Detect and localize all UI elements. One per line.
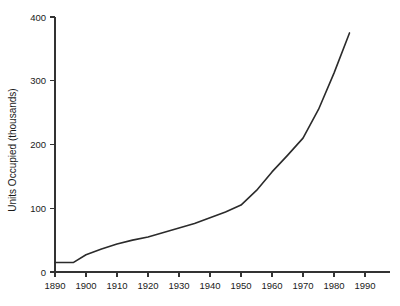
x-tick-label: 1990	[354, 280, 375, 291]
y-axis-title: Units Occupied (thousands)	[7, 88, 18, 211]
y-tick-label: 200	[30, 139, 46, 150]
y-tick-label: 0	[41, 267, 46, 278]
x-tick-label: 1970	[292, 280, 313, 291]
x-tick-label: 1950	[230, 280, 251, 291]
x-tick-label: 1900	[75, 280, 96, 291]
y-tick-label: 300	[30, 75, 46, 86]
x-tick-label: 1960	[261, 280, 282, 291]
x-axis-ticks: 1890190019101920193019401950196019701980…	[44, 272, 375, 291]
chart-container: 0100200300400 18901900191019201930194019…	[0, 0, 400, 306]
x-tick-label: 1920	[137, 280, 158, 291]
y-tick-label: 400	[30, 12, 46, 23]
y-axis-ticks: 0100200300400	[30, 12, 55, 278]
line-chart: 0100200300400 18901900191019201930194019…	[0, 0, 400, 306]
data-series-line	[55, 33, 350, 263]
x-tick-label: 1910	[106, 280, 127, 291]
x-tick-label: 1980	[323, 280, 344, 291]
y-tick-label: 100	[30, 203, 46, 214]
x-tick-label: 1890	[44, 280, 65, 291]
x-tick-label: 1930	[168, 280, 189, 291]
x-tick-label: 1940	[199, 280, 220, 291]
